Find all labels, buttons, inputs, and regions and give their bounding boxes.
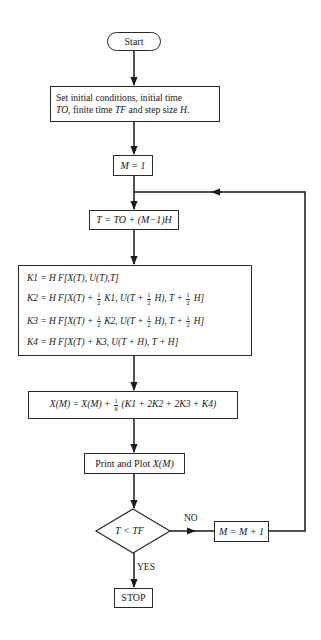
update-x-box: X(M) = X(M) + 16 (K1 + 2K2 + 2K3 + K4) [28, 391, 238, 419]
yes-label: YES [137, 563, 155, 573]
edge-loop-back [218, 192, 305, 531]
print-plot-label: Print and Plot X(M) [95, 458, 174, 470]
k4-line: K4 = H F[X(T) + K3, U(T + H), T + H] [27, 337, 178, 348]
update-x-formula: X(M) = X(M) + 16 (K1 + 2K2 + 2K3 + K4) [50, 398, 216, 412]
stop-terminal: STOP [114, 588, 153, 608]
time-label: T = TO + (M−1)H [96, 214, 171, 226]
no-label: NO [184, 514, 198, 524]
start-label: Start [125, 36, 144, 48]
print-plot-box: Print and Plot X(M) [84, 453, 185, 474]
setup-line-1: Set initial conditions, initial time [56, 92, 182, 104]
start-terminal: Start [107, 32, 161, 51]
time-box: T = TO + (M−1)H [89, 210, 179, 230]
increment-m-box: M = M + 1 [214, 521, 269, 542]
k-coefficients-box: K1 = H F[X(T), U(T),T] K2 = H F[X(T) + 1… [18, 265, 252, 356]
setup-line-2: TO, finite time TF and step size H. [56, 104, 189, 116]
setup-box: Set initial conditions, initial time TO,… [50, 86, 220, 122]
stop-label: STOP [121, 592, 145, 604]
init-m-label: M = 1 [120, 160, 145, 172]
k2-line: K2 = H F[X(T) + 12 K1, U(T + 12 H), T + … [27, 292, 204, 306]
k3-line: K3 = H F[X(T) + 12 K2, U(T + 12 H), T + … [27, 315, 204, 329]
increment-m-label: M = M + 1 [219, 526, 264, 538]
init-m-box: M = 1 [113, 155, 153, 176]
decision-label: T < TF [115, 526, 144, 536]
k1-line: K1 = H F[X(T), U(T),T] [27, 273, 119, 284]
